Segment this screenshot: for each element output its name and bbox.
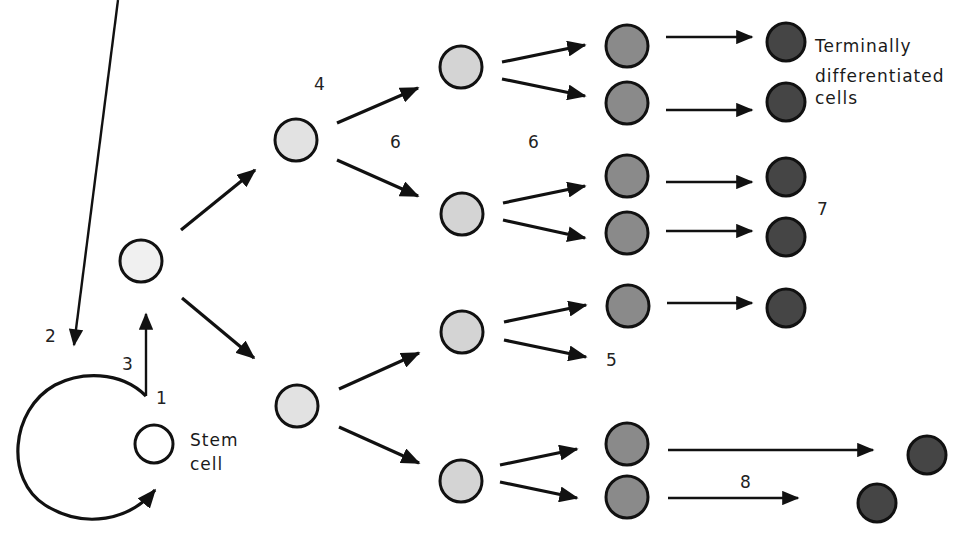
terminal-cell-5	[767, 289, 805, 327]
intermediate-cell-4	[440, 460, 482, 502]
terminal-cell-3	[767, 158, 805, 196]
arrow-progenitor-lower	[182, 298, 254, 358]
arrow-l3-2a	[503, 186, 585, 203]
label-5: 5	[606, 350, 617, 370]
committed-cell-4	[606, 212, 648, 254]
label-6a: 6	[390, 132, 401, 152]
intermediate-cell-1	[440, 46, 482, 88]
label-8: 8	[740, 472, 751, 492]
stem-cell-label-line2: cell	[190, 454, 223, 474]
terminal-label-line3: cells	[815, 88, 858, 108]
terminal-cell-4	[767, 218, 805, 256]
intermediate-cell-2	[441, 193, 483, 235]
arrow-l2l-b	[339, 427, 419, 463]
arrow-l3-4b	[500, 482, 577, 498]
terminal-cell-7	[858, 484, 896, 522]
arrow-l2u-b	[337, 160, 418, 196]
committed-cell-5	[607, 285, 649, 327]
arrow-l2l-a	[339, 353, 419, 389]
arrow-l3-1a	[502, 45, 585, 62]
label-3: 3	[122, 354, 133, 374]
committed-cell-6	[606, 423, 648, 465]
label-4: 4	[314, 74, 325, 94]
intermediate-cell-3	[441, 311, 483, 353]
stem-cell-label-line1: Stem	[190, 430, 238, 450]
transit-cell-upper	[275, 119, 317, 161]
label-7: 7	[817, 199, 828, 219]
terminal-cell-1	[767, 23, 805, 61]
stem-cell	[135, 425, 173, 463]
terminal-cell-6	[908, 436, 946, 474]
stem-cell-differentiation-diagram: Stem cell Terminally differentiated cell…	[0, 0, 975, 534]
progenitor-cell	[120, 240, 162, 282]
label-6b: 6	[528, 132, 539, 152]
terminal-label-line1: Terminally	[814, 36, 912, 56]
committed-cell-1	[606, 25, 648, 67]
arrow-to-2	[74, 0, 118, 345]
transit-cell-lower	[276, 385, 318, 427]
label-1: 1	[156, 388, 167, 408]
committed-cell-3	[606, 155, 648, 197]
committed-cell-7	[606, 476, 648, 518]
committed-cell-2	[606, 82, 648, 124]
terminal-label-line2: differentiated	[815, 66, 945, 86]
arrow-l2u-a	[337, 88, 418, 123]
arrow-l3-3a	[504, 305, 586, 322]
arrow-l3-2b	[503, 220, 585, 238]
arrow-l3-4a	[500, 449, 577, 465]
arrow-l3-3b	[504, 340, 586, 357]
arrow-progenitor-upper	[181, 170, 255, 230]
label-2: 2	[45, 326, 56, 346]
terminal-cell-2	[767, 83, 805, 121]
arrow-l3-1b	[502, 79, 585, 96]
